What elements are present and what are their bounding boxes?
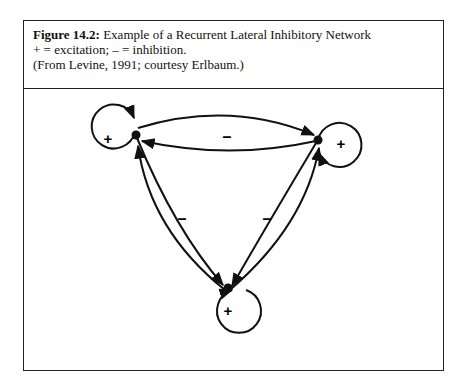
edge-label-left-bottom: – [178, 210, 187, 227]
self-label-bottom: + [224, 302, 233, 319]
self-label-right: + [337, 135, 346, 152]
edge-label-right-bottom: – [263, 210, 272, 227]
node-left [132, 131, 141, 140]
self-loop-left [92, 104, 135, 148]
node-bottom [224, 284, 233, 293]
network-diagram: + + + – – – [0, 0, 462, 383]
node-right [314, 136, 323, 145]
edge-right-bottom [231, 143, 319, 289]
self-label-left: + [104, 130, 113, 147]
edge-label-left-right: – [223, 128, 232, 145]
